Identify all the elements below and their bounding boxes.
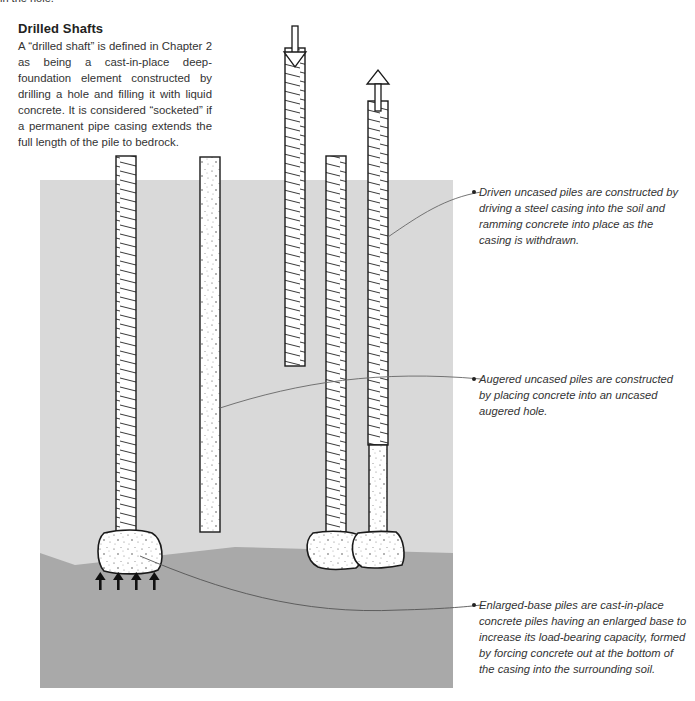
callout-enlarged-base-piles: Enlarged-base piles are cast-in-place co… [479, 597, 687, 677]
bullet-icon [472, 603, 476, 607]
bullet-icon [472, 190, 476, 194]
callout-text: Enlarged-base piles are cast-in-place co… [479, 599, 686, 675]
callout-augered-uncased-piles: Augered uncased piles are constructed by… [479, 371, 687, 419]
driven-pile-being-driven [284, 26, 306, 366]
bullet-icon [472, 377, 476, 381]
callout-text: Driven uncased piles are constructed by … [479, 186, 678, 246]
callout-text: Augered uncased piles are constructed by… [479, 373, 673, 417]
pile-types-diagram [0, 0, 695, 701]
callout-driven-uncased-piles: Driven uncased piles are constructed by … [479, 184, 687, 248]
augered-uncased-pile [200, 157, 220, 532]
